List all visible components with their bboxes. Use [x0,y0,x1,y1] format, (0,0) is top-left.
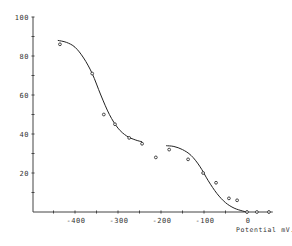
y-tick-label: 20 [20,170,29,178]
data-point [202,172,205,175]
fitted-curve [58,40,142,141]
data-point [215,181,218,184]
data-point [268,211,271,214]
x-tick-label: -400 [67,217,86,225]
chart: 20406080100 -400-300-200-1000 Potential … [0,0,292,246]
data-point [154,156,157,159]
data-point [102,113,105,116]
fitted-curves [58,40,247,212]
x-tick-label: -300 [110,217,129,225]
data-point [114,123,117,126]
y-tick-label: 100 [15,14,29,22]
y-tick-label: 60 [20,92,29,100]
data-point [187,158,190,161]
data-point [236,199,239,202]
x-tick-label: -100 [196,217,215,225]
x-tick-label: 0 [246,217,251,225]
x-tick-label: -200 [153,217,172,225]
data-point [59,43,62,46]
fitted-curve [166,146,247,212]
data-point [91,72,94,75]
y-axis: 20406080100 [15,14,35,213]
x-axis: -400-300-200-1000 [33,211,273,226]
x-axis-label: Potential mV. [236,226,292,234]
data-point [168,148,171,151]
y-tick-label: 40 [20,131,29,139]
data-point [228,197,231,200]
y-tick-label: 80 [20,53,29,61]
data-point [128,137,131,140]
data-point [255,211,258,214]
data-point [141,142,144,145]
data-point [246,211,249,214]
data-points [59,43,271,214]
